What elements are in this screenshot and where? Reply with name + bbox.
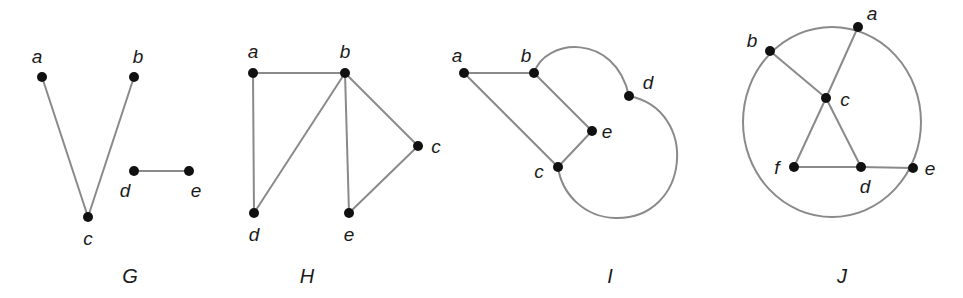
- vertex-e: [184, 166, 194, 176]
- vertex-c: [553, 162, 563, 172]
- vertex-label-d: d: [643, 72, 655, 93]
- vertex-label-b: b: [521, 45, 532, 66]
- graph-name-label: G: [122, 265, 138, 287]
- vertex-a: [459, 68, 469, 78]
- vertex-a: [248, 68, 258, 78]
- vertex-label-a: a: [32, 46, 43, 67]
- edge-a-c: [42, 77, 88, 217]
- edge-a-c: [464, 73, 558, 167]
- vertex-e: [344, 208, 354, 218]
- vertex-label-c: c: [534, 161, 544, 182]
- graph-i: abcdeI: [452, 45, 677, 287]
- vertex-d: [624, 91, 634, 101]
- vertex-label-b: b: [747, 30, 758, 51]
- graphs-layer: abcdeGabcdeHabcdeIabcfdeJ: [32, 3, 936, 287]
- edge-a-d: [253, 73, 254, 213]
- graph-name-label: H: [300, 265, 315, 287]
- graph-figure: abcdeGabcdeHabcdeIabcfdeJ: [0, 0, 963, 298]
- vertex-f: [789, 162, 799, 172]
- vertex-b: [340, 68, 350, 78]
- vertex-label-e: e: [344, 224, 355, 245]
- vertex-label-d: d: [860, 176, 872, 197]
- graph-name-label: J: [836, 265, 848, 287]
- vertex-a: [37, 72, 47, 82]
- edge-b-c: [770, 51, 826, 98]
- vertex-a: [853, 22, 863, 32]
- vertex-d: [129, 166, 139, 176]
- vertex-b: [765, 46, 775, 56]
- vertex-label-a: a: [248, 41, 259, 62]
- vertex-b: [129, 72, 139, 82]
- vertex-c: [413, 141, 423, 151]
- vertex-label-b: b: [133, 46, 144, 67]
- vertex-b: [529, 68, 539, 78]
- graph-j: abcfdeJ: [743, 3, 935, 287]
- curved-edge-b-d: [534, 47, 629, 96]
- graph-name-label: I: [607, 265, 613, 287]
- vertex-c: [821, 93, 831, 103]
- graph-g: abcdeG: [32, 46, 202, 287]
- vertex-label-d: d: [120, 180, 132, 201]
- edge-b-e: [534, 73, 592, 131]
- edge-b-c: [345, 73, 418, 146]
- vertex-label-e: e: [602, 121, 613, 142]
- edge-d-e: [861, 167, 913, 168]
- vertex-label-a: a: [867, 3, 878, 24]
- vertex-e: [587, 126, 597, 136]
- vertex-d: [856, 162, 866, 172]
- vertex-label-f: f: [774, 157, 781, 178]
- edge-e-c: [558, 131, 592, 167]
- vertex-label-c: c: [431, 136, 441, 157]
- vertex-label-c: c: [83, 228, 93, 249]
- edge-b-d: [254, 73, 345, 213]
- edge-b-e: [345, 73, 349, 213]
- graph-h: abcdeH: [248, 41, 442, 287]
- vertex-label-e: e: [191, 180, 202, 201]
- vertex-label-d: d: [249, 224, 261, 245]
- vertex-c: [83, 212, 93, 222]
- vertex-label-a: a: [452, 45, 463, 66]
- vertex-label-e: e: [925, 158, 936, 179]
- vertex-d: [249, 208, 259, 218]
- edge-c-e: [349, 146, 418, 213]
- edge-a-c: [826, 27, 858, 98]
- vertex-e: [908, 163, 918, 173]
- vertex-label-b: b: [340, 41, 351, 62]
- edge-c-f: [794, 98, 826, 167]
- vertex-label-c: c: [840, 89, 850, 110]
